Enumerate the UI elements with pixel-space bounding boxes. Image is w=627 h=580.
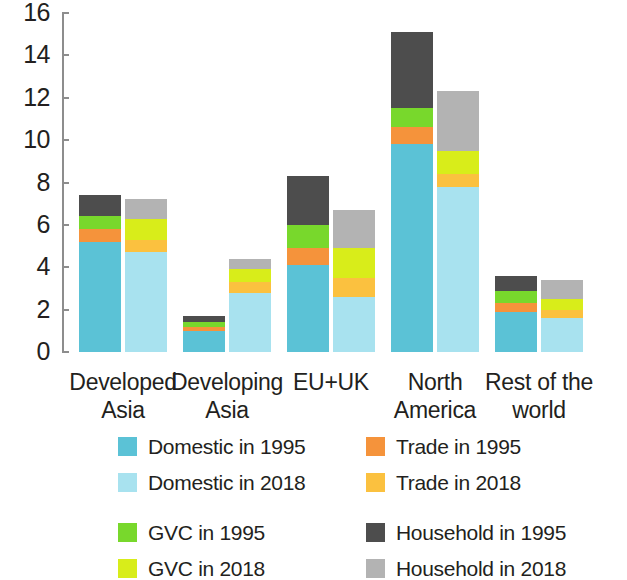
y-axis-tick-label: 4 [6,254,50,279]
y-axis-tick-label: 6 [6,212,50,237]
legend-item-domestic-in-1995[interactable]: Domestic in 1995 [118,436,305,457]
legend-item-trade-in-2018[interactable]: Trade in 2018 [366,472,521,493]
y-axis-tick-mark [62,54,69,56]
legend-label: Domestic in 1995 [148,436,305,457]
bar-segment-domestic-2018 [229,293,271,352]
bar-north-america-2018 [437,91,479,352]
y-axis-tick-mark [62,139,69,141]
legend-label: Trade in 2018 [396,472,521,493]
legend-item-trade-in-1995[interactable]: Trade in 1995 [366,436,521,457]
legend-item-household-in-2018[interactable]: Household in 2018 [366,558,566,579]
bar-segment-trade-1995 [79,229,121,242]
bar-segment-household-1995 [79,195,121,216]
bar-segment-trade-2018 [437,174,479,187]
bar-segment-trade-1995 [287,248,329,265]
bar-segment-gvc-1995 [79,216,121,229]
legend-label: Household in 1995 [396,522,566,543]
legend-swatch-icon [366,437,385,456]
chart-legend: Domestic in 1995Domestic in 2018Trade in… [0,432,627,568]
bar-segment-trade-2018 [541,310,583,318]
y-axis-tick-mark [62,309,69,311]
bar-segment-household-2018 [229,259,271,270]
y-axis-tick-mark [62,182,69,184]
bar-segment-trade-2018 [333,278,375,297]
bar-segment-domestic-1995 [79,242,121,352]
bar-segment-household-1995 [287,176,329,225]
legend-swatch-icon [118,523,137,542]
bar-segment-gvc-2018 [229,269,271,282]
bar-segment-gvc-2018 [541,299,583,310]
bar-segment-household-1995 [391,32,433,108]
bar-rest-of-the-world-2018 [541,280,583,352]
y-axis-tick-mark [62,224,69,226]
bar-segment-domestic-1995 [391,144,433,352]
bar-segment-domestic-1995 [495,312,537,352]
legend-swatch-icon [118,473,137,492]
bar-rest-of-the-world-1995 [495,276,537,352]
x-axis-label-rest-of-the-world: Rest of theworld [459,368,619,424]
bar-segment-household-2018 [541,280,583,299]
bar-segment-gvc-1995 [495,291,537,304]
bar-developed-asia-2018 [125,199,167,352]
bar-segment-household-1995 [495,276,537,291]
bar-segment-gvc-1995 [287,225,329,248]
bar-eu-uk-1995 [287,176,329,352]
bar-developing-asia-1995 [183,316,225,352]
bar-segment-household-2018 [333,210,375,248]
legend-label: GVC in 1995 [148,522,265,543]
legend-item-household-in-1995[interactable]: Household in 1995 [366,522,566,543]
bar-segment-gvc-2018 [437,151,479,174]
y-axis-tick-label: 8 [6,170,50,195]
y-axis-tick-label: 14 [6,42,50,67]
legend-item-domestic-in-2018[interactable]: Domestic in 2018 [118,472,305,493]
y-axis-tick-mark [62,97,69,99]
legend-swatch-icon [366,523,385,542]
x-axis-label-line1: Rest of the [459,368,619,396]
bar-segment-domestic-2018 [541,318,583,352]
bar-segment-domestic-2018 [333,297,375,352]
legend-item-gvc-in-1995[interactable]: GVC in 1995 [118,522,265,543]
legend-swatch-icon [366,473,385,492]
bar-developed-asia-1995 [79,195,121,352]
legend-swatch-icon [118,559,137,578]
bar-eu-uk-2018 [333,210,375,352]
bar-segment-gvc-2018 [125,219,167,240]
bar-segment-domestic-1995 [183,331,225,352]
legend-item-gvc-in-2018[interactable]: GVC in 2018 [118,558,265,579]
bar-segment-trade-2018 [125,240,167,253]
legend-label: Household in 2018 [396,558,566,579]
bar-segment-domestic-2018 [437,187,479,352]
x-axis-label-line2: world [459,396,619,424]
y-axis-tick-label: 12 [6,85,50,110]
bar-segment-trade-1995 [391,127,433,144]
legend-label: Trade in 1995 [396,436,521,457]
y-axis-tick-mark [62,266,69,268]
bar-segment-trade-1995 [495,303,537,311]
bar-segment-household-2018 [437,91,479,150]
legend-swatch-icon [366,559,385,578]
bar-north-america-1995 [391,32,433,352]
x-axis-labels: DevelopedAsiaDevelopingAsiaEU+UKNorthAme… [0,360,627,430]
bar-segment-domestic-2018 [125,252,167,352]
y-axis-tick-label: 16 [6,0,50,25]
bar-segment-domestic-1995 [287,265,329,352]
bar-segment-household-2018 [125,199,167,218]
y-axis-tick-mark [62,12,69,14]
plot-area: 0246810121416 [0,0,627,360]
bar-segment-trade-2018 [229,282,271,293]
bar-segment-gvc-1995 [391,108,433,127]
x-axis-label-line2: Asia [147,396,307,424]
legend-label: GVC in 2018 [148,558,265,579]
bar-developing-asia-2018 [229,259,271,352]
legend-swatch-icon [118,437,137,456]
y-axis-tick-label: 2 [6,297,50,322]
legend-label: Domestic in 2018 [148,472,305,493]
y-axis-tick-label: 10 [6,127,50,152]
bar-segment-gvc-2018 [333,248,375,278]
y-axis-tick-mark [62,351,69,353]
